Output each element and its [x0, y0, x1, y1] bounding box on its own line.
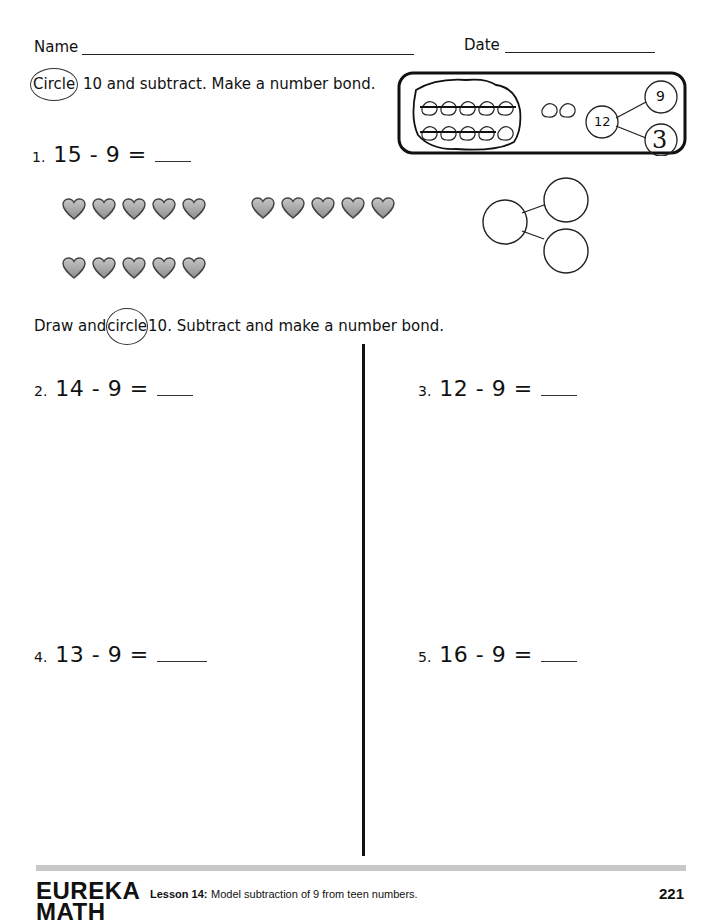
section1-instruction: Circle 10 and subtract. Make a number bo… — [30, 68, 376, 101]
vertical-divider — [362, 344, 365, 856]
problem-number: 1. — [32, 149, 45, 165]
heart-icon — [151, 255, 177, 281]
problem-number: 5. — [418, 649, 431, 665]
problem-number: 2. — [34, 383, 47, 399]
hearts-row2-group1 — [61, 255, 207, 281]
answer-blank[interactable] — [155, 160, 191, 162]
problem-equation: 16 - 9 = — [439, 642, 532, 667]
date-field[interactable] — [505, 52, 655, 53]
lesson-label: Lesson 14: — [150, 888, 207, 900]
heart-icon — [61, 196, 87, 222]
problem-number: 4. — [34, 649, 47, 665]
number-bond-empty[interactable] — [480, 175, 590, 275]
hearts-row1-group1 — [61, 196, 207, 222]
name-field[interactable] — [82, 54, 414, 55]
problem-5: 5. 16 - 9 = — [418, 642, 577, 667]
problem-4: 4. 13 - 9 = — [34, 642, 207, 667]
problem-1: 1. 15 - 9 = — [32, 142, 191, 167]
circled-word: circle — [106, 308, 148, 345]
heart-icon — [181, 255, 207, 281]
eureka-math-logo: EUREKA MATH — [36, 880, 140, 922]
heart-icon — [250, 195, 276, 221]
answer-blank[interactable] — [157, 660, 207, 662]
example-bond-whole: 12 — [594, 114, 611, 129]
hearts-row1-group2 — [250, 195, 396, 221]
circled-word: Circle — [30, 68, 78, 101]
heart-icon — [91, 196, 117, 222]
example-bond-part-top: 9 — [656, 88, 665, 104]
date-label: Date — [464, 36, 500, 54]
answer-blank[interactable] — [541, 394, 577, 396]
heart-icon — [121, 196, 147, 222]
heart-icon — [151, 196, 177, 222]
problem-number: 3. — [418, 383, 431, 399]
instruction-text: 10 and subtract. Make a number bond. — [83, 75, 376, 93]
problem-equation: 12 - 9 = — [439, 376, 532, 401]
instruction-text: 10. Subtract and make a number bond. — [148, 317, 444, 335]
section2-instruction: Draw andcircle10. Subtract and make a nu… — [34, 308, 444, 345]
page-number: 221 — [659, 885, 684, 902]
example-box: 12 9 3 — [396, 70, 688, 156]
problem-2: 2. 14 - 9 = — [34, 376, 193, 401]
heart-icon — [370, 195, 396, 221]
answer-blank[interactable] — [541, 660, 577, 662]
instruction-prefix: Draw and — [34, 317, 106, 335]
heart-icon — [91, 255, 117, 281]
answer-blank[interactable] — [157, 394, 193, 396]
heart-icon — [340, 195, 366, 221]
lesson-title: Model subtraction of 9 from teen numbers… — [211, 888, 418, 900]
problem-3: 3. 12 - 9 = — [418, 376, 577, 401]
example-bond-part-bottom: 3 — [652, 126, 667, 154]
heart-icon — [310, 195, 336, 221]
problem-equation: 13 - 9 = — [55, 642, 148, 667]
footer-bar — [36, 865, 686, 871]
name-label: Name — [34, 38, 78, 56]
problem-equation: 15 - 9 = — [53, 142, 146, 167]
logo-line2: MATH — [36, 901, 140, 922]
problem-equation: 14 - 9 = — [55, 376, 148, 401]
heart-icon — [181, 196, 207, 222]
heart-icon — [121, 255, 147, 281]
example-illustration — [396, 70, 688, 156]
heart-icon — [280, 195, 306, 221]
heart-icon — [61, 255, 87, 281]
